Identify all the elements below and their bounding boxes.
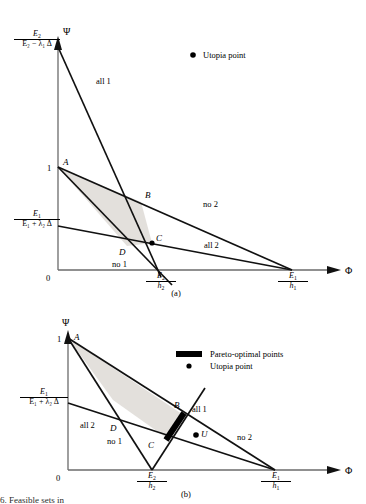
panel-a-line-all-2 <box>58 226 292 270</box>
panel-a-tick-one: 1 <box>47 163 51 173</box>
panel-b-region-no-1: no 1 <box>107 436 122 446</box>
panel-a-point-c-marker <box>149 240 154 245</box>
panel-a-label-D: D <box>118 247 126 257</box>
panel-b-label-B: B <box>174 400 180 410</box>
panel-a-xtick-1: E2 h2 <box>146 272 176 290</box>
panel-b-legend-bar-icon <box>176 351 202 357</box>
panel-a-ylabel-top-den: E₂ − λ₁ Δ <box>14 39 60 48</box>
panel-b-xtick-1: E2 h2 <box>137 472 167 490</box>
panel-b-ylabel-mid-den: E₁ + λ₂ Δ <box>20 397 68 406</box>
panel-b-legend-utopia-label: Utopia point <box>210 361 253 371</box>
panel-b-y-axis-name: Ψ <box>62 317 70 328</box>
panel-b-tick-one: 1 <box>57 334 61 344</box>
panel-a-x-axis-name: Φ <box>345 265 352 276</box>
panel-b-region-all-1: all 1 <box>192 404 207 414</box>
panel-a-label-A: A <box>62 157 69 167</box>
panel-b-x-axis-arrow <box>327 466 341 474</box>
panel-b-ylabel-mid: E1 E₁ + λ₂ Δ <box>20 388 68 406</box>
panel-a-xtick-2: E1 h1 <box>278 272 308 290</box>
panel-a-y-axis-name: Ψ <box>63 26 71 37</box>
figure-root: A B C D all 1 no 2 all 2 no 1 Utopia poi… <box>0 0 366 504</box>
panel-a-label-B: B <box>145 190 151 200</box>
panel-b-xtick-2: E1 h1 <box>261 472 291 490</box>
figure-caption-clipped: 6. Feasible sets in <box>0 495 366 504</box>
panel-b-legend-dot-icon <box>186 363 191 368</box>
panel-a-region-no-1: no 1 <box>112 259 127 269</box>
panel-a-line-no-2 <box>58 167 292 270</box>
panel-a-region-no-2: no 2 <box>203 199 218 209</box>
panel-a-ylabel-top: E2 E₂ − λ₁ Δ <box>14 30 60 48</box>
panel-b-legend-pareto-label: Pareto-optimal points <box>210 349 283 359</box>
panel-b-label-U: U <box>201 429 208 439</box>
panel-b-tick-origin: 0 <box>56 473 60 483</box>
panel-a-legend-utopia-label: Utopia point <box>203 50 246 60</box>
panel-b-region-no-2: no 2 <box>237 432 252 442</box>
panel-a-x-axis-arrow <box>327 266 341 274</box>
panel-b-x-axis-name: Φ <box>345 465 352 476</box>
panel-a-tick-origin: 0 <box>46 273 50 283</box>
panel-a-label-C: C <box>156 233 163 243</box>
panel-a-legend-dot-icon <box>190 52 196 58</box>
panel-a-ylabel-mid: E1 E₁ + λ₂ Δ <box>14 210 60 228</box>
panel-a-region-all-2: all 2 <box>204 240 219 250</box>
panel-a-region-all-1: all 1 <box>96 76 111 86</box>
panel-b-label-D: D <box>109 423 117 433</box>
panel-a-ylabel-mid-den: E₁ + λ₂ Δ <box>14 219 60 228</box>
panel-b-label-A: A <box>73 332 80 342</box>
panel-b-utopia-point-marker <box>193 432 199 438</box>
panel-b-region-all-2: all 2 <box>80 420 95 430</box>
panel-b-label-C: C <box>148 440 155 450</box>
